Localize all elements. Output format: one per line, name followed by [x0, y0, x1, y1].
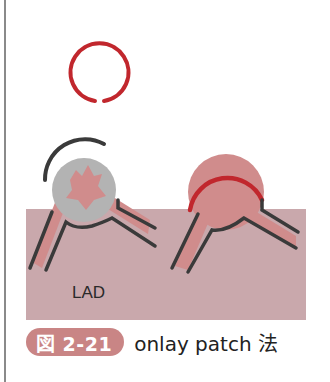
figure-caption: 図 2-21 onlay patch 法 [26, 328, 278, 356]
figure-caption-text: onlay patch 法 [134, 328, 278, 357]
onlay-patch-diagram: LAD [0, 0, 330, 382]
patch-ring-icon [71, 43, 129, 101]
lad-label: LAD [72, 283, 105, 302]
figure-number-badge: 図 2-21 [26, 328, 124, 356]
